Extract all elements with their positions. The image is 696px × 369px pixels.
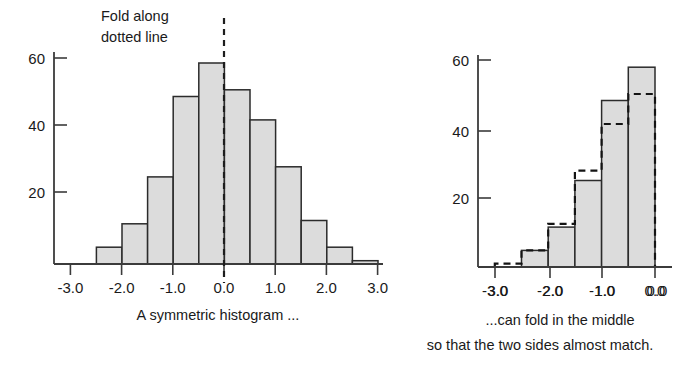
- y-tick-label-60: 60: [28, 50, 45, 67]
- bar-left-bin-4: [602, 101, 629, 268]
- left-caption: A symmetric histogram ...: [137, 307, 300, 323]
- folded-solid-bars: [522, 67, 656, 267]
- y-axis-ticks: [54, 58, 67, 192]
- bar-bin-4: [173, 97, 199, 265]
- bar-left-bin-3: [575, 181, 602, 268]
- y-axis-ticks-right: [478, 60, 491, 198]
- bar-bin-7: [250, 120, 276, 264]
- bar-left-bin-5: [628, 67, 655, 267]
- bar-bin-2: [122, 224, 148, 264]
- y-tick-label-60-right: 60: [452, 52, 469, 69]
- bar-bin-10: [327, 247, 353, 264]
- x-tick-label-1: 1.0: [265, 279, 286, 296]
- bar-bin-1: [96, 247, 122, 264]
- folded-histogram-svg: 60 40 20 -3.0 3.0 -2.0 2.0 -1.0 1.0 0.0 …: [400, 0, 696, 369]
- fold-annotation-line2: dotted line: [101, 29, 168, 45]
- fold-annotation-line1: Fold along: [101, 8, 169, 24]
- x-tick-label-m1: -1.0: [160, 279, 186, 296]
- right-caption-line1: ...can fold in the middle: [485, 312, 634, 328]
- y-tick-label-20-right: 20: [452, 190, 469, 207]
- bar-bin-9: [301, 221, 327, 265]
- x-tick-label-m3-pos: 3.0: [488, 282, 509, 299]
- left-chart-panel: 60 40 20 -3.0 -2.0 -1.0 0.0 1.0 2.0 3.0: [0, 0, 400, 330]
- bar-bin-8: [276, 167, 302, 264]
- x-axis-ticks-right: [495, 267, 655, 278]
- figure-root: 60 40 20 -3.0 -2.0 -1.0 0.0 1.0 2.0 3.0: [0, 0, 696, 369]
- x-tick-label-m2: -2.0: [109, 279, 135, 296]
- bar-bin-6: [224, 90, 250, 264]
- y-tick-label-20: 20: [28, 184, 45, 201]
- bar-left-bin-2: [548, 227, 575, 267]
- symmetric-histogram-svg: 60 40 20 -3.0 -2.0 -1.0 0.0 1.0 2.0 3.0: [0, 0, 400, 330]
- bar-left-bin-1: [522, 250, 549, 267]
- right-chart-panel: 60 40 20 -3.0 3.0 -2.0 2.0 -1.0 1.0 0.0 …: [400, 0, 696, 369]
- x-tick-label-0: 0.0: [214, 279, 235, 296]
- x-tick-label-m3: -3.0: [57, 279, 83, 296]
- x-tick-label-2: 2.0: [316, 279, 337, 296]
- x-tick-labels-overlaid: -3.0 3.0 -2.0 2.0 -1.0 1.0 0.0 0.0: [482, 282, 667, 299]
- bar-bin-3: [148, 177, 174, 264]
- x-tick-label-0-pos: 0.0: [647, 282, 668, 299]
- x-tick-label-3: 3.0: [367, 279, 388, 296]
- bar-bin-5: [199, 63, 225, 264]
- y-tick-label-40: 40: [28, 117, 45, 134]
- y-tick-label-40-right: 40: [452, 123, 469, 140]
- right-caption-line2: so that the two sides almost match.: [427, 337, 653, 353]
- x-tick-label-m1-pos: 1.0: [595, 282, 616, 299]
- histogram-bars: [96, 63, 378, 264]
- x-tick-label-m2-pos: 2.0: [543, 282, 564, 299]
